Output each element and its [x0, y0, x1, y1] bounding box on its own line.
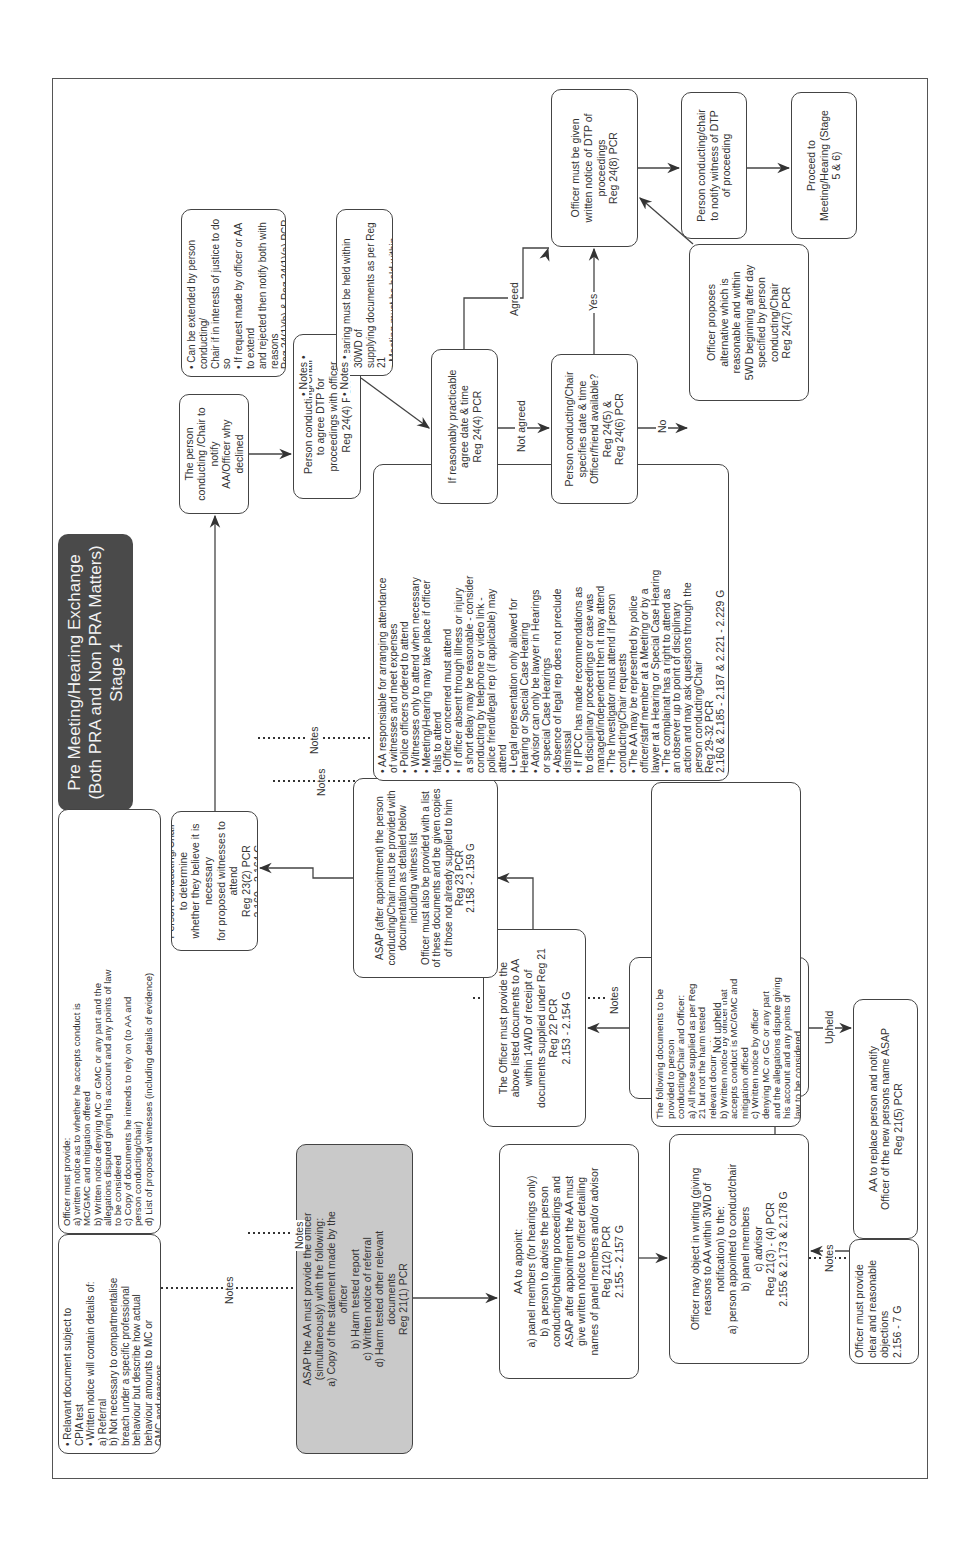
step-line: conducting/Chair	[768, 283, 781, 362]
step-line: proceedings	[595, 139, 608, 196]
step-proceed: Proceed to Meeting/Hearing (Stage 5 & 6)	[791, 92, 857, 239]
note-line: Chair if in interests of justice to do s…	[210, 217, 234, 369]
step-line: Reg 24(5) &	[601, 401, 614, 458]
step-determine-witnesses: Person conducting/Chair to determine whe…	[171, 811, 258, 951]
notes-connector-label: • Notes •	[297, 353, 309, 398]
note-line: GMC and reasons	[154, 1242, 161, 1446]
notes-label: Notes	[823, 1243, 835, 1274]
notes-label: Notes	[293, 1220, 305, 1251]
step-line: The person	[183, 427, 196, 480]
note-line: lawyer at a Hearing or Special Case Hear…	[651, 472, 662, 773]
step-line: b) Harm tested report	[349, 1249, 361, 1349]
step-line: Reg 21(1) PCR	[397, 1263, 409, 1335]
title-line: Stage 4	[106, 540, 127, 805]
notes-connector-label: • Notes •	[338, 353, 350, 398]
note-following-documents: The following documents to be provided t…	[651, 782, 801, 1127]
step-line: reasonable and within	[730, 271, 743, 373]
step-line: AA/Officer why declined	[220, 402, 245, 506]
step-line: specified by person	[755, 277, 768, 367]
step-line: for proposed witnesses to attend	[215, 819, 240, 943]
step-line: Reg 24(8) PCR	[607, 132, 620, 204]
step-line: (simultaneously) with the following:	[313, 1218, 325, 1380]
note-line: • Witnesses only to attend when necessar…	[411, 472, 422, 773]
step-line: AA to appoint:	[512, 1229, 525, 1294]
step-line: above listed documents to AA	[509, 959, 522, 1097]
step-line: documents	[385, 1273, 397, 1324]
step-line: including witness list	[408, 833, 419, 924]
step-line: conducting/Chair must be provided with	[386, 790, 397, 965]
note-line: and rejected then notify both with reaso…	[257, 217, 281, 369]
step-line: 2.155 & 2.173 & 2.178 G	[777, 1191, 790, 1307]
step-line: of those not already supplied to him	[443, 799, 454, 957]
upheld-label: Upheld	[823, 1009, 835, 1046]
step-asap-aa-provide: ASAP the AA must provide the officer (si…	[296, 1144, 413, 1454]
step-line: Officer may object in writing (giving	[689, 1168, 702, 1331]
step-aa-replace-person: AA to replace person and notify Officer …	[853, 999, 918, 1239]
step-line: Proceed to	[805, 140, 818, 191]
step-line: of these documents and be given copies	[431, 789, 442, 968]
step-line: If reasonably practicable	[446, 370, 459, 484]
note-line: b) Not necessary to compartmentalise	[108, 1242, 120, 1446]
notes-label: Notes	[608, 985, 620, 1016]
step-line: 5WD beginning after day	[743, 265, 756, 381]
note-aa-responsible: • AA responsiable for arranging attendan…	[373, 464, 729, 781]
step-officer-provide-listed: The Officer must provide the above liste…	[483, 929, 586, 1127]
step-line: 2.153 - 2.154 G	[560, 992, 573, 1065]
flowchart-frame: Pre Meeting/Hearing Exchange (Both PRA a…	[52, 78, 928, 1479]
note-line: denying MC or GC or any part	[761, 790, 772, 1119]
step-line: conducting /Chair to notify	[195, 402, 220, 506]
note-line: or special Case Hearings	[542, 472, 553, 773]
note-line: 2.156 - 7 G	[891, 1245, 904, 1358]
notes-label: Notes	[315, 767, 327, 798]
step-notify-why-declined: The person conducting /Chair to notify A…	[179, 394, 249, 514]
note-can-be-extended: • Can be extended by person conducting/ …	[181, 209, 286, 377]
step-officer-may-object: Officer may object in writing (giving re…	[669, 1134, 809, 1364]
step-line: Officer of the new persons name ASAP	[879, 1028, 892, 1210]
step-line: Officer/friend available?	[588, 374, 601, 484]
step-line: Meeting/Hearing (Stage	[818, 110, 831, 221]
step-officer-proposes-alternative: Officer proposes alternative which is re…	[689, 244, 809, 401]
note-relevant-document: • Relavant document subject to CPIA test…	[58, 1234, 161, 1454]
note-line: • Advisor can only be lawyer in Hearings	[531, 472, 542, 773]
yes-label: Yes	[587, 292, 599, 313]
step-line: officer	[337, 1285, 349, 1313]
step-line: Reg 23(2) PCR	[240, 845, 253, 917]
note-line: clear and reasonable	[866, 1245, 879, 1358]
note-line: Officer must provide	[853, 1245, 866, 1358]
notes-label: Notes	[223, 1275, 235, 1306]
note-line: • Absence of legal rep does not preclude	[553, 472, 564, 773]
step-line: a) person appointed to conduct/chair	[726, 1164, 739, 1334]
note-line: behaviour but describe how actual	[131, 1242, 143, 1446]
step-line: b) a person to advise the person	[538, 1186, 551, 1337]
step-line: a) Copy of the statement made by the	[325, 1211, 337, 1387]
no-label: No	[656, 418, 668, 435]
step-line: to notify witness of DTP	[708, 110, 721, 220]
step-line: Reg 23 PCR	[454, 850, 465, 906]
note-line: d) List of proposed witnesses (including…	[144, 817, 154, 1226]
note-line: behaviour amounts to MC or	[143, 1242, 155, 1446]
step-line: Officer must be given	[569, 118, 582, 217]
step-line: conducting/chairing proceedings and	[550, 1176, 563, 1347]
step-line: Officer proposes	[705, 284, 718, 361]
notes-label: Notes	[308, 725, 320, 756]
step-line: The Officer must provide the	[497, 962, 510, 1094]
step-line: written notice of DTP of	[582, 114, 595, 223]
not-agreed-label: Not agreed	[515, 398, 527, 454]
note-line: Reg 24(1)(b) & Reg 24(1)(a) PCR	[280, 217, 286, 369]
step-line: Reg 21(3) - (4) PCR	[764, 1202, 777, 1296]
note-line: police friend/legal rep (if applicable) …	[487, 472, 498, 773]
step-line: d) Harm tested other relevant	[373, 1231, 385, 1368]
step-line: within 14WD of receipt of	[522, 970, 535, 1087]
note-line: law to be considered	[793, 790, 801, 1119]
step-line: Reg 24(7) PCR	[780, 287, 793, 359]
step-line: documents supplied under Reg 21	[535, 948, 548, 1108]
note-line: CPIA test	[74, 1242, 86, 1446]
note-line: • Meeting/Hearing may take place if offi…	[422, 472, 433, 773]
step-line: a) panel members (for hearings only)	[525, 1175, 538, 1347]
step-line: c) advisor	[752, 1226, 765, 1272]
step-line: reasons to AA within 3WD of	[701, 1183, 714, 1315]
step-line: 2.155 - 2.157 G	[613, 1225, 626, 1298]
note-line: a) Referral	[97, 1242, 109, 1446]
step-line: Reg 21(5) PCR	[892, 1083, 905, 1155]
step-line: Reg 22 PCR	[547, 999, 560, 1058]
